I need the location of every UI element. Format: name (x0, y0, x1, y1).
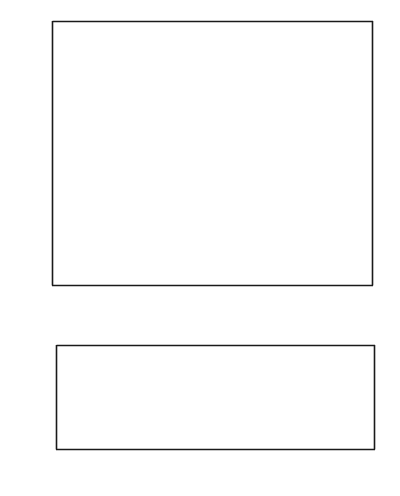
figure-background (0, 0, 400, 496)
heat-flow-figure (0, 0, 400, 496)
